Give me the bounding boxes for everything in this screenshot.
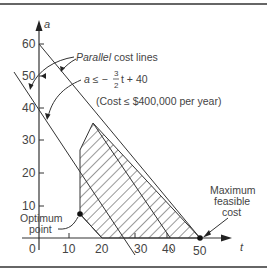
arrow-head-icon xyxy=(60,66,65,72)
optimum-label-line2: point xyxy=(29,223,52,235)
y-tick-30: 30 xyxy=(22,133,36,147)
optimum-point-marker xyxy=(77,211,83,217)
y-tick-10: 10 xyxy=(22,199,36,213)
y-tick-20: 20 xyxy=(22,166,36,180)
x-tick-50: 50 xyxy=(193,244,207,258)
feasible-region xyxy=(80,123,200,238)
x-axis-arrow-icon xyxy=(221,235,232,242)
parallel-cost-lines-label: Parallel cost lines xyxy=(76,51,158,63)
y-tick-60: 60 xyxy=(22,37,36,51)
constraint-leader xyxy=(48,80,81,117)
max-cost-point-marker xyxy=(197,235,203,241)
x-tick-10: 10 xyxy=(62,242,76,256)
x-tick-0: 0 xyxy=(29,242,36,256)
y-ticks xyxy=(39,44,44,206)
svg-text:2: 2 xyxy=(114,81,119,90)
x-tick-20: 20 xyxy=(95,242,109,256)
max-cost-label-line3: cost xyxy=(222,206,241,218)
svg-text:a ≤ −: a ≤ − xyxy=(84,73,108,85)
svg-text:t + 40: t + 40 xyxy=(121,73,148,85)
x-tick-40: 40 xyxy=(162,242,176,256)
cost-note: (Cost ≤ $400,000 per year) xyxy=(96,95,221,107)
svg-text:3: 3 xyxy=(114,69,119,78)
arrow-head-icon xyxy=(45,113,51,120)
arrow-head-icon xyxy=(41,73,46,79)
y-tick-40: 40 xyxy=(22,101,36,115)
x-axis-label: t xyxy=(240,241,244,253)
feasible-region-diagram: a t 10 20 30 40 50 60 0 10 20 30 40 50 P… xyxy=(0,0,267,270)
constraint-label: a ≤ − 3 2 t + 40 xyxy=(84,69,148,90)
max-cost-leader xyxy=(203,218,228,238)
x-tick-30: 30 xyxy=(134,242,148,256)
y-tick-50: 50 xyxy=(22,69,36,83)
y-axis-label: a xyxy=(44,18,50,30)
y-axis-arrow-icon xyxy=(36,20,43,31)
